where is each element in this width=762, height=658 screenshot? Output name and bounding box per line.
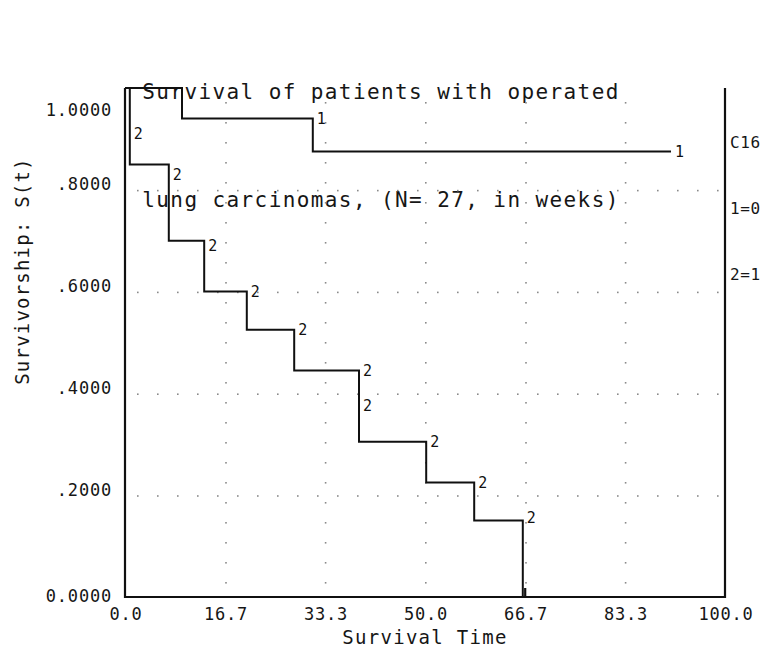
data-point-marker: 1 [675, 143, 684, 161]
data-point-marker: 2 [363, 362, 372, 380]
data-point-marker: 2 [173, 166, 182, 184]
data-point-marker: 2 [134, 125, 143, 143]
series-curves [125, 88, 671, 597]
series-markers: 112222222222 [134, 110, 684, 528]
data-point-marker: 2 [298, 321, 307, 339]
data-point-marker: 1 [317, 110, 326, 128]
data-point-marker: 2 [208, 237, 217, 255]
data-point-marker: 2 [251, 283, 260, 301]
data-point-marker: 2 [527, 509, 536, 527]
data-point-marker: 2 [363, 397, 372, 415]
grid-dots [137, 102, 719, 584]
plot-area: 112222222222 [0, 0, 762, 658]
data-point-marker: 2 [478, 474, 487, 492]
data-point-marker: 2 [430, 433, 439, 451]
chart-page: Survival of patients with operated lung … [0, 0, 762, 658]
